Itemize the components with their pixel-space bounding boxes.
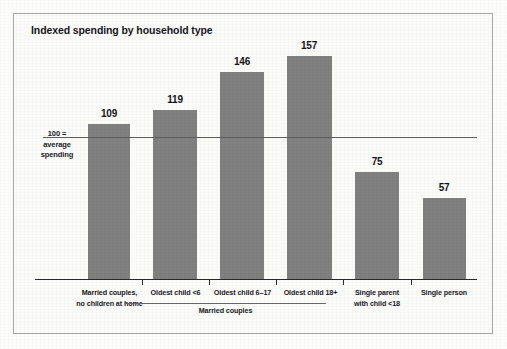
- reference-label-line-3: spending: [26, 150, 88, 161]
- bar-value-label: 119: [145, 94, 205, 105]
- bar-married-no-children: [88, 124, 130, 279]
- scanned-page: Indexed spending by household type 109 1…: [0, 0, 507, 349]
- bar-value-label: 109: [79, 108, 139, 119]
- category-label-line: Single person: [399, 288, 489, 299]
- x-axis-tick: [411, 280, 412, 285]
- bar-oldest-child-under-6: [153, 110, 197, 279]
- bar-value-label: 57: [414, 182, 474, 193]
- x-axis-category-label: Single person: [399, 288, 489, 299]
- x-axis-tick: [142, 280, 143, 285]
- x-axis-tick: [209, 280, 210, 285]
- bar-value-label: 146: [212, 56, 272, 67]
- bar-chart-plot: 109 119 146 157 75 57 100 = average spen…: [0, 0, 507, 349]
- bar-single-person: [423, 198, 466, 279]
- reference-label-line-1: 100 =: [26, 129, 88, 140]
- category-label-line: with child <18: [332, 299, 422, 310]
- bar-oldest-child-6-17: [220, 72, 264, 279]
- x-axis-tick: [276, 280, 277, 285]
- bar-value-label: 157: [279, 40, 339, 51]
- bar-single-parent-child-under-18: [355, 172, 399, 279]
- category-group-bracket: [125, 303, 326, 304]
- x-axis-tick: [343, 280, 344, 285]
- reference-label-line-2: average: [26, 140, 88, 151]
- bar-oldest-child-18-plus: [287, 56, 332, 279]
- bar-value-label: 75: [347, 156, 407, 167]
- average-reference-line: [43, 137, 477, 138]
- average-reference-label: 100 = average spending: [26, 129, 88, 161]
- category-group-label: Married couples: [125, 306, 326, 315]
